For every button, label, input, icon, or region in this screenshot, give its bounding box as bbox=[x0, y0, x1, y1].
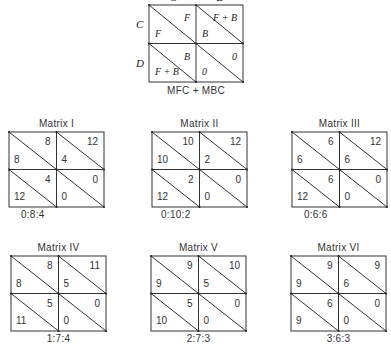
cell-lower-value: 0 bbox=[62, 192, 68, 202]
cell-upper-value: 6 bbox=[292, 175, 334, 185]
col-header-c: C bbox=[170, 0, 177, 3]
cell-lower-value: 5 bbox=[204, 279, 210, 289]
cell-lower-value: 11 bbox=[16, 316, 26, 326]
cell-upper-value: 11 bbox=[59, 261, 101, 271]
matrix-1-ratio: 0:8:4 bbox=[13, 209, 53, 220]
cell-lower-value: F + B bbox=[155, 67, 179, 77]
cell-lower-value: 0 bbox=[64, 316, 70, 326]
cell-upper-value: 9 bbox=[291, 261, 333, 271]
matrix-3-ratio: 0:6:6 bbox=[296, 209, 336, 220]
cell-lower-value: 2 bbox=[205, 155, 211, 165]
cell-lower-value: 0 bbox=[344, 316, 350, 326]
matrix-2-ratio: 0:10:2 bbox=[156, 209, 196, 220]
cell-upper-value: 12 bbox=[57, 137, 99, 147]
cell-upper-value: 2 bbox=[152, 175, 194, 185]
cell-lower-value: B bbox=[202, 29, 208, 39]
cell-upper-value: 8 bbox=[9, 137, 51, 147]
cell-upper-value: 10 bbox=[152, 137, 194, 147]
row-header-d: D bbox=[136, 57, 144, 69]
cell-lower-value: 6 bbox=[297, 155, 303, 165]
cell-upper-value: 9 bbox=[339, 261, 381, 271]
cell-lower-value: 0 bbox=[345, 192, 351, 202]
cell-lower-value: 5 bbox=[64, 279, 70, 289]
matrix-5-title: Matrix V bbox=[151, 242, 246, 253]
cell-lower-value: 6 bbox=[345, 155, 351, 165]
matrix-6-title: Matrix VI bbox=[291, 242, 386, 253]
cell-upper-value: F bbox=[149, 13, 190, 23]
matrix-6-ratio: 3:6:3 bbox=[319, 333, 359, 344]
cell-lower-value: 0 bbox=[205, 192, 211, 202]
matrix-3-title: Matrix III bbox=[292, 118, 387, 129]
cell-lower-value: 4 bbox=[62, 155, 68, 165]
cell-lower-value: 10 bbox=[156, 316, 167, 326]
cell-upper-value: 9 bbox=[151, 261, 193, 271]
cell-lower-value: 12 bbox=[157, 192, 168, 202]
cell-upper-value: 5 bbox=[151, 299, 193, 309]
cell-upper-value: 12 bbox=[200, 137, 242, 147]
matrix-1-title: Matrix I bbox=[9, 118, 104, 129]
cell-lower-value: 0 bbox=[204, 316, 210, 326]
cell-lower-value: 8 bbox=[16, 279, 22, 289]
cell-lower-value: 6 bbox=[344, 279, 350, 289]
cell-upper-value: 5 bbox=[11, 299, 53, 309]
cell-upper-value: 0 bbox=[59, 299, 101, 309]
cell-lower-value: 9 bbox=[156, 279, 162, 289]
cell-lower-value: 9 bbox=[296, 316, 302, 326]
cell-upper-value: 12 bbox=[340, 137, 382, 147]
cell-upper-value: F + B bbox=[196, 13, 237, 23]
row-header-c: C bbox=[136, 18, 143, 30]
cell-upper-value: 0 bbox=[339, 299, 381, 309]
matrix-4-ratio: 1:7:4 bbox=[39, 333, 79, 344]
cell-lower-value: F bbox=[155, 29, 161, 39]
cell-upper-value: 0 bbox=[200, 175, 242, 185]
cell-lower-value: 8 bbox=[14, 155, 20, 165]
cell-upper-value: 0 bbox=[199, 299, 241, 309]
cell-lower-value: 9 bbox=[296, 279, 302, 289]
cell-upper-value: 6 bbox=[291, 299, 333, 309]
cell-lower-value: 12 bbox=[297, 192, 308, 202]
matrix-5-ratio: 2:7:3 bbox=[179, 333, 219, 344]
matrix-2-title: Matrix II bbox=[152, 118, 247, 129]
cell-upper-value: 10 bbox=[199, 261, 241, 271]
cell-upper-value: 8 bbox=[11, 261, 53, 271]
cell-upper-value: 0 bbox=[196, 52, 237, 62]
matrix-4-title: Matrix IV bbox=[11, 242, 106, 253]
cell-lower-value: 10 bbox=[157, 155, 168, 165]
cell-upper-value: B bbox=[149, 52, 190, 62]
cell-upper-value: 0 bbox=[340, 175, 382, 185]
cell-lower-value: 0 bbox=[202, 67, 207, 77]
cell-upper-value: 4 bbox=[9, 175, 51, 185]
col-header-d: D bbox=[217, 0, 225, 3]
cell-lower-value: 12 bbox=[14, 192, 25, 202]
cell-upper-value: 0 bbox=[57, 175, 99, 185]
cell-upper-value: 6 bbox=[292, 137, 334, 147]
top-matrix-caption: MFC + MBC bbox=[149, 85, 243, 96]
